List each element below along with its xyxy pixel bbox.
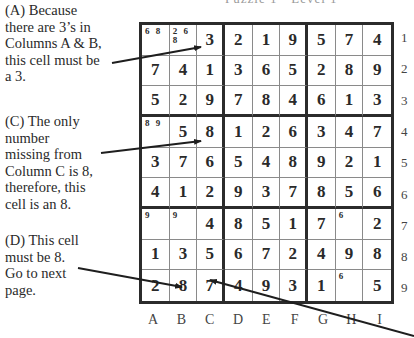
arrow-c — [101, 141, 201, 153]
arrow-d — [78, 268, 182, 287]
arrow-a — [112, 47, 201, 63]
annotation-arrows — [0, 0, 414, 338]
arrow-offpage — [210, 280, 414, 336]
